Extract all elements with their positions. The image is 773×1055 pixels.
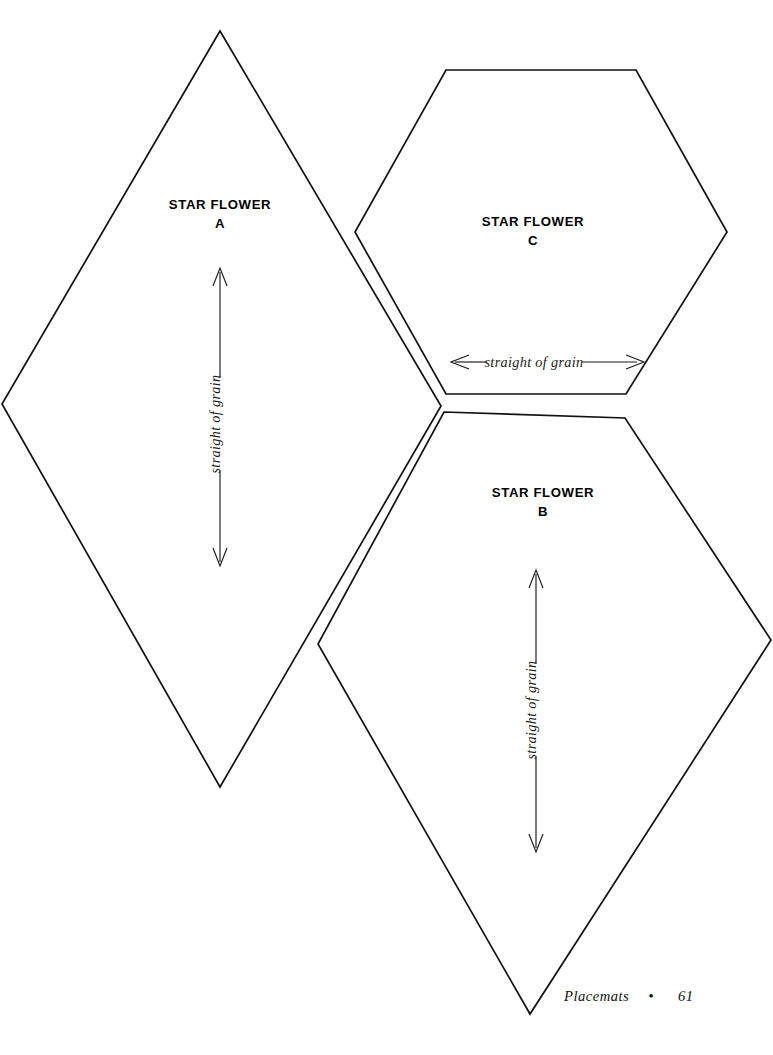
- piece-b-grain-label: straight of grain: [523, 661, 539, 760]
- pattern-page: STAR FLOWER A straight of grain STAR FLO…: [0, 0, 773, 1055]
- piece-a-grain-label: straight of grain: [207, 375, 223, 474]
- piece-b-letter: B: [538, 504, 548, 519]
- piece-c-grain-label: straight of grain: [485, 354, 584, 370]
- piece-c-title: STAR FLOWER: [482, 214, 584, 229]
- piece-star-flower-c[interactable]: STAR FLOWER C straight of grain: [355, 70, 727, 394]
- piece-b-title: STAR FLOWER: [492, 485, 594, 500]
- footer-separator: •: [648, 988, 653, 1004]
- piece-a-title: STAR FLOWER: [169, 197, 271, 212]
- pattern-sheet: STAR FLOWER A straight of grain STAR FLO…: [0, 0, 773, 1055]
- piece-a-letter: A: [215, 216, 225, 231]
- page-footer: Placemats • 61: [563, 988, 694, 1004]
- footer-page-number: 61: [678, 988, 694, 1004]
- piece-c-letter: C: [528, 233, 538, 248]
- footer-section-label: Placemats: [563, 988, 629, 1004]
- piece-c-outline[interactable]: [355, 70, 727, 394]
